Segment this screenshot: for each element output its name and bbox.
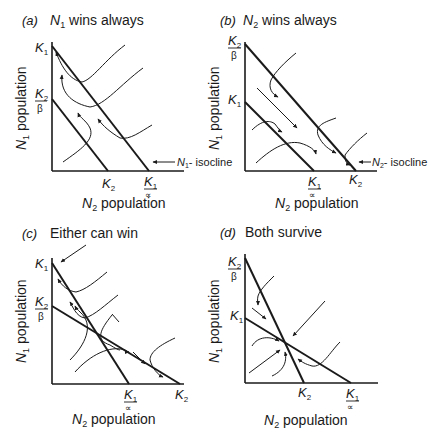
panel-a-letter: (a) — [22, 13, 38, 28]
svg-text:K1: K1 — [144, 174, 158, 191]
panel-b-letter: (b) — [220, 13, 236, 28]
svg-text:∝: ∝ — [145, 190, 151, 200]
panel-a-y-ticks: K1 K2 β — [35, 40, 49, 114]
panel-b-axes — [245, 42, 377, 171]
lotka-volterra-competition-diagram: (a) N1 wins always N1 population N2 popu… — [0, 0, 438, 440]
panel-a-trajectories — [56, 45, 152, 162]
tick-k1: K1 — [35, 256, 49, 273]
panel-c-isoclines — [52, 263, 180, 384]
panel-a-x-axis-label: N2 population — [82, 195, 166, 213]
panel-b-trajectories — [252, 53, 367, 165]
panel-c-x-axis-label: N2 population — [72, 411, 156, 429]
tick-k2: K2 — [175, 387, 189, 404]
tick-k2-over-beta: K2 β — [228, 254, 242, 282]
tick-k2: K2 — [102, 176, 116, 193]
panel-b-y-ticks: K2 β K1 — [228, 33, 242, 109]
svg-text:β: β — [38, 311, 44, 322]
svg-text:K2: K2 — [35, 86, 49, 103]
tick-k2: K2 — [298, 385, 312, 402]
panel-a-y-axis-label: N1 population — [13, 66, 31, 150]
panel-d-title: Both survive — [245, 224, 322, 240]
tick-k2-over-beta: K2 β — [35, 294, 49, 322]
panel-c-letter: (c) — [22, 226, 37, 241]
svg-text:β: β — [231, 271, 237, 282]
panel-c-y-ticks: K1 K2 β — [35, 256, 49, 322]
tick-k2-over-beta: K2 β — [35, 86, 49, 114]
panel-b: (b) N2 wins always N1 population N2 popu… — [206, 12, 427, 213]
panel-b-y-axis-label: N1 population — [206, 66, 224, 150]
panel-b-isoclines — [245, 44, 356, 171]
svg-text:K1: K1 — [308, 174, 322, 191]
panel-a-isoclines — [52, 46, 149, 171]
svg-text:N1- isocline: N1- isocline — [177, 156, 232, 169]
tick-k1: K1 — [228, 92, 242, 109]
tick-k1-over-alpha: K1 ∝ — [346, 386, 360, 412]
svg-text:β: β — [231, 50, 237, 61]
panel-a-title: N1 wins always — [50, 12, 144, 30]
svg-text:K1: K1 — [346, 386, 360, 403]
tick-k1: K1 — [230, 308, 244, 325]
panel-d-x-ticks: K2 K1 ∝ — [298, 385, 360, 412]
tick-k2: K2 — [349, 172, 363, 189]
panel-b-x-axis-label: N2 population — [275, 195, 359, 213]
svg-text:K2: K2 — [35, 294, 49, 311]
panel-d-letter: (d) — [220, 225, 236, 240]
tick-k1-over-alpha: K1 ∝ — [124, 387, 138, 413]
panel-c-trajectories — [58, 245, 175, 377]
panel-a: (a) N1 wins always N1 population N2 popu… — [13, 12, 232, 213]
svg-text:β: β — [37, 103, 43, 114]
panel-d-y-axis-label: N1 population — [206, 279, 224, 363]
svg-text:∝: ∝ — [347, 402, 353, 412]
panel-c: (c) Either can win N1 population N2 popu… — [13, 225, 189, 429]
panel-c-x-ticks: K1 ∝ K2 — [124, 387, 189, 413]
svg-text:∝: ∝ — [125, 403, 131, 413]
panel-b-isocline-annotation: N2- isocline — [359, 156, 427, 169]
panel-b-title: N2 wins always — [243, 12, 337, 30]
panel-d: (d) Both survive N1 population N2 popula… — [206, 224, 378, 430]
panel-d-y-ticks: K2 β K1 — [228, 254, 244, 325]
svg-text:K1: K1 — [124, 387, 138, 404]
panel-d-x-axis-label: N2 population — [264, 412, 348, 430]
svg-text:K2: K2 — [228, 254, 242, 271]
panel-c-y-axis-label: N1 population — [13, 279, 31, 363]
panel-a-axes — [52, 42, 184, 171]
tick-k1: K1 — [35, 40, 49, 57]
tick-k2-over-beta: K2 β — [228, 33, 242, 61]
panel-c-title: Either can win — [50, 225, 138, 241]
svg-text:K2: K2 — [228, 33, 242, 50]
svg-text:∝: ∝ — [309, 190, 315, 200]
panel-a-isocline-annotation: N1- isocline — [153, 156, 232, 169]
svg-text:N2- isocline: N2- isocline — [372, 156, 427, 169]
